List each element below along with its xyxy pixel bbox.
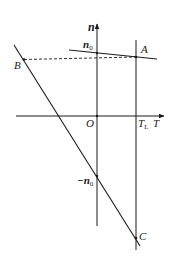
- point-a: [135, 56, 138, 59]
- point-c-label: C: [139, 230, 147, 242]
- point-neg-n0: [96, 175, 98, 177]
- point-b-label: B: [14, 59, 21, 71]
- point-a-label: A: [140, 43, 148, 55]
- origin-point: [96, 115, 98, 117]
- n-axis-label: n: [88, 20, 95, 34]
- dashed-line-b-a: [24, 57, 136, 60]
- point-c: [135, 237, 138, 240]
- diagram-canvas: n n0 A B O TL T −n0 C: [0, 0, 175, 266]
- neg-n0-label: −n0: [77, 174, 94, 188]
- t-axis-label: T: [153, 117, 160, 129]
- tl-label: TL: [138, 117, 148, 131]
- point-n0: [96, 52, 98, 54]
- origin-label: O: [86, 117, 94, 129]
- steep-line: [14, 45, 140, 246]
- n0-label: n0: [83, 38, 93, 52]
- point-b: [23, 58, 26, 61]
